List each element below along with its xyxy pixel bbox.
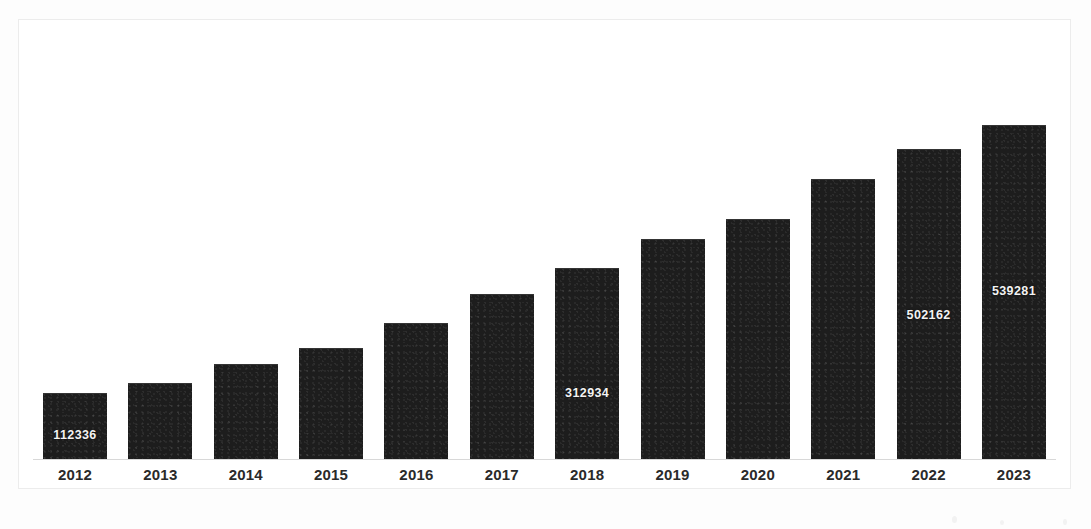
bar-slot (726, 28, 790, 460)
bar-slot: 312934 (555, 28, 619, 460)
x-axis-tick-label: 2021 (811, 466, 875, 483)
scan-artifact (1000, 520, 1004, 525)
bar[interactable]: 502162 (897, 149, 961, 460)
bar-series: 112336312934502162539281 (43, 28, 1046, 460)
chart-frame: 112336312934502162539281 201220132014201… (18, 19, 1071, 489)
bar[interactable] (726, 219, 790, 460)
bar[interactable] (384, 323, 448, 460)
bar-slot (128, 28, 192, 460)
bar-slot: 502162 (897, 28, 961, 460)
bar[interactable]: 312934 (555, 268, 619, 460)
bar-value-label: 502162 (897, 308, 961, 322)
bar[interactable] (470, 294, 534, 460)
bar-slot (811, 28, 875, 460)
x-axis-tick-label: 2019 (641, 466, 705, 483)
bar-slot (214, 28, 278, 460)
scan-artifact (952, 516, 957, 523)
bar[interactable] (214, 364, 278, 460)
bar-slot (641, 28, 705, 460)
x-axis-tick-label: 2023 (982, 466, 1046, 483)
scanned-page: 112336312934502162539281 201220132014201… (0, 0, 1091, 529)
bar[interactable]: 539281 (982, 125, 1046, 460)
bar[interactable] (811, 179, 875, 460)
bar-value-label: 112336 (43, 428, 107, 442)
bar-slot: 539281 (982, 28, 1046, 460)
x-axis-tick-label: 2016 (384, 466, 448, 483)
scan-artifact (1063, 519, 1067, 525)
bar-slot (384, 28, 448, 460)
x-axis-tick-label: 2013 (128, 466, 192, 483)
x-axis-tick-label: 2020 (726, 466, 790, 483)
bar-slot (470, 28, 534, 460)
bar-slot: 112336 (43, 28, 107, 460)
x-axis-tick-label: 2017 (470, 466, 534, 483)
x-axis-tick-label: 2018 (555, 466, 619, 483)
x-axis-line (33, 459, 1056, 460)
bar-value-label: 539281 (982, 284, 1046, 298)
x-axis-tick-labels: 2012201320142015201620172018201920202021… (43, 466, 1046, 483)
x-axis-tick-label: 2022 (897, 466, 961, 483)
bar[interactable] (299, 348, 363, 460)
x-axis-tick-label: 2012 (43, 466, 107, 483)
bar[interactable] (128, 383, 192, 460)
x-axis-tick-label: 2015 (299, 466, 363, 483)
bar-slot (299, 28, 363, 460)
plot-area: 112336312934502162539281 (43, 28, 1046, 460)
x-axis-tick-label: 2014 (214, 466, 278, 483)
bar-value-label: 312934 (555, 386, 619, 400)
bar[interactable]: 112336 (43, 393, 107, 460)
bar[interactable] (641, 239, 705, 460)
